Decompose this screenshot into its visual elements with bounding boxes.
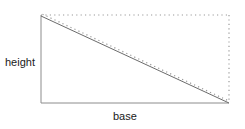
height-label: height: [5, 56, 35, 69]
diagram-canvas: height base: [0, 0, 245, 129]
diagonal-offset-dotted: [43, 14, 231, 101]
base-label: base: [113, 110, 137, 123]
diagonal-hypotenuse: [41, 16, 229, 103]
